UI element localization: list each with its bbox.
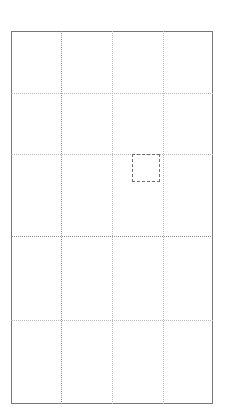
vertical-guide-1[interactable]: [61, 31, 62, 404]
vertical-guide-2[interactable]: [112, 31, 113, 404]
vertical-guide-3[interactable]: [163, 31, 164, 404]
horizontal-guide-2[interactable]: [11, 154, 213, 155]
horizontal-guide-3[interactable]: [11, 236, 213, 237]
selection-box[interactable]: [132, 154, 160, 182]
horizontal-guide-1[interactable]: [11, 93, 213, 94]
layout-grid-canvas: [0, 0, 229, 419]
horizontal-guide-4[interactable]: [11, 320, 213, 321]
